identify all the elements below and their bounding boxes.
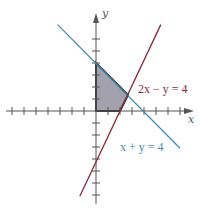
line-2x-minus-y-eq-4 [80, 25, 161, 197]
y-axis-label: y [101, 7, 109, 20]
y-axis-arrow-icon [93, 13, 99, 23]
equation-label-x-plus-y: x + y = 4 [120, 140, 164, 154]
equation-label-2x-minus-y: 2x − y = 4 [138, 82, 188, 96]
x-axis-label: x [188, 113, 195, 126]
graph-figure: x y 2x − y = 4 x + y = 4 [0, 0, 201, 213]
